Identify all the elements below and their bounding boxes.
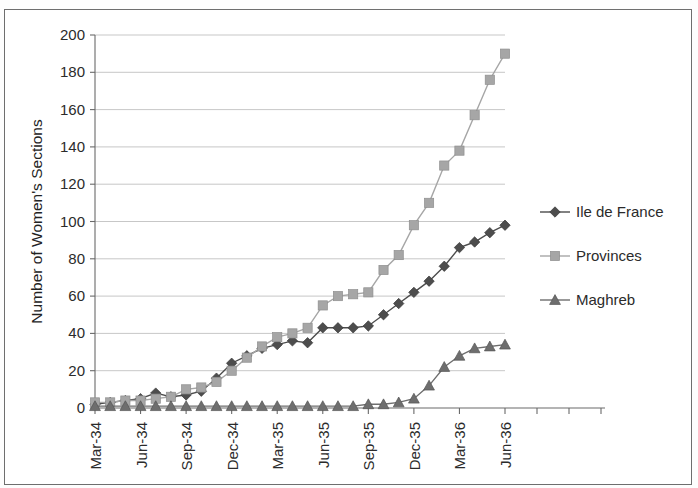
legend-item-maghreb[interactable]: Maghreb (540, 291, 635, 308)
legend-item-provinces[interactable]: Provinces (540, 247, 642, 264)
y-axis-title: Number of Women's Sections (28, 119, 45, 324)
y-tick-label-180: 180 (60, 63, 85, 80)
x-axis-group: Mar-34Jun-34Sep-34Dec-34Mar-35Jun-35Sep-… (87, 408, 601, 470)
x-tick-label-5: Jun-35 (315, 422, 332, 468)
marker-0-20 (394, 298, 404, 308)
legend-marker-1 (550, 251, 559, 260)
y-tick-label-80: 80 (68, 250, 85, 267)
x-tick-label-3: Dec-34 (224, 422, 241, 470)
marker-2-27 (500, 339, 511, 349)
marker-1-11 (257, 342, 266, 351)
marker-1-23 (440, 161, 449, 170)
x-tick-label-7: Dec-35 (406, 422, 423, 470)
x-tick-label-9: Jun-36 (497, 422, 514, 468)
legend-marker-0 (550, 207, 560, 217)
marker-0-18 (363, 321, 373, 331)
marker-0-26 (485, 227, 495, 237)
x-tick-label-1: Jun-34 (133, 422, 150, 468)
marker-0-17 (348, 323, 358, 333)
series-ile-de-france (90, 220, 510, 409)
y-tick-label-20: 20 (68, 362, 85, 379)
marker-1-21 (409, 221, 418, 230)
marker-1-6 (182, 385, 191, 394)
x-tick-label-2: Sep-34 (178, 422, 195, 470)
marker-1-8 (212, 377, 221, 386)
marker-1-7 (197, 383, 206, 392)
marker-1-27 (500, 49, 509, 58)
marker-1-9 (227, 366, 236, 375)
legend: Ile de FranceProvincesMaghreb (540, 203, 664, 308)
marker-1-17 (349, 290, 358, 299)
line-chart: 020406080100120140160180200Mar-34Jun-34S… (0, 0, 698, 488)
marker-1-12 (273, 333, 282, 342)
marker-0-16 (333, 323, 343, 333)
y-tick-label-160: 160 (60, 101, 85, 118)
series-provinces (90, 49, 509, 407)
marker-0-19 (378, 310, 388, 320)
marker-1-25 (470, 111, 479, 120)
x-tick-label-6: Sep-35 (360, 422, 377, 470)
series-line-1 (95, 54, 505, 403)
marker-1-16 (333, 292, 342, 301)
marker-1-10 (242, 353, 251, 362)
marker-1-18 (364, 288, 373, 297)
marker-1-26 (485, 75, 494, 84)
y-tick-label-0: 0 (77, 399, 85, 416)
marker-1-22 (424, 198, 433, 207)
marker-1-13 (288, 329, 297, 338)
x-tick-label-4: Mar-35 (269, 422, 286, 470)
legend-label-1: Provinces (576, 247, 642, 264)
marker-1-19 (379, 265, 388, 274)
legend-item-ile-de-france[interactable]: Ile de France (540, 203, 664, 220)
legend-label-0: Ile de France (576, 203, 664, 220)
chart-canvas: 020406080100120140160180200Mar-34Jun-34S… (0, 0, 698, 488)
series-line-0 (95, 225, 505, 404)
marker-1-15 (318, 301, 327, 310)
marker-0-25 (469, 237, 479, 247)
x-tick-label-8: Mar-36 (451, 422, 468, 470)
y-tick-label-120: 120 (60, 175, 85, 192)
marker-1-14 (303, 323, 312, 332)
y-tick-label-100: 100 (60, 213, 85, 230)
x-tick-label-0: Mar-34 (87, 422, 104, 470)
y-tick-label-200: 200 (60, 26, 85, 43)
legend-label-2: Maghreb (576, 291, 635, 308)
gridlines-group: 020406080100120140160180200 (60, 26, 505, 416)
marker-1-20 (394, 250, 403, 259)
chart-page: 020406080100120140160180200Mar-34Jun-34S… (0, 0, 698, 488)
y-tick-label-140: 140 (60, 138, 85, 155)
marker-2-23 (439, 362, 450, 372)
y-tick-label-40: 40 (68, 324, 85, 341)
y-tick-label-60: 60 (68, 287, 85, 304)
marker-1-24 (455, 146, 464, 155)
marker-2-24 (454, 350, 465, 360)
